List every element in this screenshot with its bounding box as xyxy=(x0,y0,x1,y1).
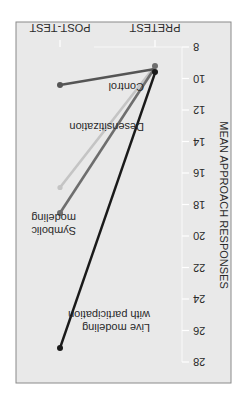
tick-label-26: 26 xyxy=(193,325,205,337)
tick-label-14: 14 xyxy=(193,136,205,148)
tick-label-8: 8 xyxy=(193,41,199,53)
y-axis-title: MEAN APPROACH RESPONSES xyxy=(218,121,230,289)
point-pretest-live xyxy=(152,69,158,75)
tick-label-12: 12 xyxy=(193,104,205,116)
label-live-1: Live modeling xyxy=(82,322,150,334)
point-control-post xyxy=(57,82,63,88)
label-desensitization: Desensitization xyxy=(69,121,144,133)
point-desensitization-post xyxy=(57,185,62,190)
posttest-label: POST-TEST xyxy=(29,22,90,34)
tick-label-28: 28 xyxy=(193,356,205,368)
tick-label-22: 22 xyxy=(193,262,205,274)
label-symbolic-2: modeling xyxy=(31,212,76,224)
chart-svg: 8 10 12 14 16 18 20 22 24 26 28 MEAN APP… xyxy=(0,0,244,395)
tick-label-16: 16 xyxy=(193,167,205,179)
tick-label-18: 18 xyxy=(193,199,205,211)
label-live-2: with participation xyxy=(68,309,151,321)
tick-label-24: 24 xyxy=(193,293,205,305)
tick-label-10: 10 xyxy=(193,73,205,85)
label-control: Control xyxy=(109,81,144,93)
point-live-post xyxy=(57,345,63,351)
label-symbolic-1: Symbolic xyxy=(31,225,76,237)
tick-label-20: 20 xyxy=(193,230,205,242)
point-pretest-cluster xyxy=(152,63,158,69)
pretest-label: PRETEST xyxy=(129,22,180,34)
chart-figure: 8 10 12 14 16 18 20 22 24 26 28 MEAN APP… xyxy=(0,0,244,395)
